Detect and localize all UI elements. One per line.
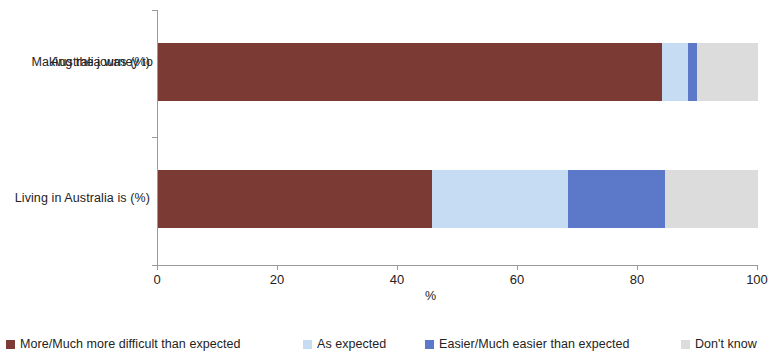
bar-segment-dont-know <box>665 170 758 228</box>
legend-swatch-icon-easier <box>425 340 434 349</box>
y-tick-bottom <box>152 265 158 266</box>
legend-item-as-expected[interactable]: As expected <box>303 337 386 351</box>
legend-item-easier[interactable]: Easier/Much easier than expected <box>425 337 630 351</box>
category-label-living-line1: Living in Australia is (%) <box>0 190 150 207</box>
bar-segment-more-difficult <box>158 43 662 101</box>
chart-legend: More/Much more difficult than expected A… <box>0 337 776 357</box>
bar-living-in-australia <box>158 170 758 228</box>
x-tick-label-80: 80 <box>617 272 657 287</box>
bar-segment-easier <box>688 43 697 101</box>
x-tick-label-0: 0 <box>137 272 177 287</box>
x-tick-label-60: 60 <box>497 272 537 287</box>
x-tick-80 <box>637 265 638 270</box>
x-tick-60 <box>517 265 518 270</box>
x-tick-label-100: 100 <box>737 272 776 287</box>
bar-segment-dont-know <box>697 43 758 101</box>
legend-label-as-expected: As expected <box>317 337 386 351</box>
x-axis-line <box>157 265 758 266</box>
legend-swatch-icon-as-expected <box>303 340 312 349</box>
x-tick-40 <box>397 265 398 270</box>
legend-label-more-difficult: More/Much more difficult than expected <box>20 337 241 351</box>
legend-swatch-icon-more-difficult <box>6 340 15 349</box>
category-label-journey-line1: Making the journey to <box>3 54 153 71</box>
x-axis-title: % <box>425 289 436 303</box>
legend-swatch-icon-dont-know <box>681 340 690 349</box>
y-tick-top <box>152 10 158 11</box>
category-label-journey: Making the journey to Australia was (%) <box>0 54 153 71</box>
bar-segment-more-difficult <box>158 170 432 228</box>
bar-segment-as-expected <box>662 43 688 101</box>
stacked-bar-chart: Making the journey to Australia was (%) … <box>0 0 776 360</box>
legend-label-dont-know: Don't know <box>695 337 757 351</box>
legend-label-easier: Easier/Much easier than expected <box>439 337 630 351</box>
legend-item-more-difficult[interactable]: More/Much more difficult than expected <box>6 337 241 351</box>
bar-segment-easier <box>568 170 665 228</box>
x-tick-label-40: 40 <box>377 272 417 287</box>
x-tick-100 <box>757 265 758 270</box>
y-tick-middle <box>152 137 158 138</box>
category-label-living: Living in Australia is (%) <box>0 190 153 207</box>
x-tick-label-20: 20 <box>257 272 297 287</box>
bar-segment-as-expected <box>432 170 568 228</box>
x-tick-20 <box>277 265 278 270</box>
legend-item-dont-know[interactable]: Don't know <box>681 337 757 351</box>
bar-making-the-journey <box>158 43 758 101</box>
